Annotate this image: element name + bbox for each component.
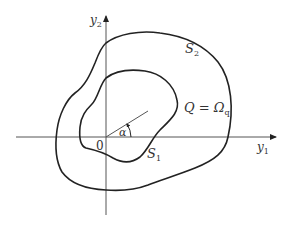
region-sub: q: [225, 108, 230, 117]
origin-label: 0: [96, 140, 104, 152]
y2-label-main: y: [90, 13, 97, 27]
s1-main: S: [147, 146, 156, 161]
inner-curve-s1: [80, 70, 178, 161]
angle-arc: [127, 124, 131, 137]
y2-axis-label: y2: [90, 14, 102, 29]
y1-label-sub: 1: [264, 147, 269, 156]
y1-label-main: y: [257, 140, 264, 154]
s2-label: S2′: [185, 42, 195, 58]
s1-sub: 1: [156, 154, 161, 163]
region-main: Q = Ω: [184, 100, 225, 115]
region-label: Q = Ωq: [184, 101, 230, 117]
diagram-canvas: [0, 0, 288, 226]
s2-prime: ′: [193, 41, 195, 50]
y2-label-sub: 2: [97, 20, 102, 29]
y1-axis-label: y1: [257, 141, 269, 156]
s1-label: S1: [147, 147, 161, 163]
angle-label: α: [119, 127, 126, 138]
s2-sub: 2: [194, 49, 199, 58]
